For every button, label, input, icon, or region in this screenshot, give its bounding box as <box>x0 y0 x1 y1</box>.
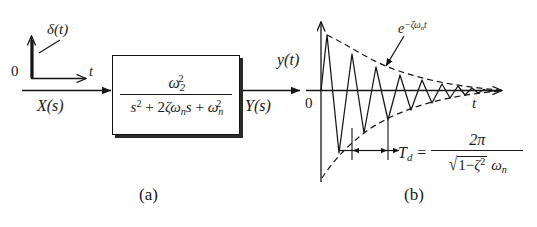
damped-period-equation: Td = 2π √1−ζ2 ωn <box>398 131 523 175</box>
period-numerator: 2π <box>465 131 489 150</box>
period-symbol: Td <box>398 144 412 163</box>
input-signal-label: X(s) <box>37 98 64 115</box>
period-T: T <box>398 144 407 161</box>
period-fraction: 2π √1−ζ2 ωn <box>431 131 523 175</box>
sqrt-zeta-superscript: 2 <box>480 156 485 167</box>
impulse-leader-line <box>39 40 60 53</box>
denom-plus-2: + <box>195 100 203 116</box>
denom-omega-2-superscript: 2 <box>216 98 221 109</box>
origin-label-a: 0 <box>11 64 19 80</box>
envelope-label: e−ζωnt <box>398 20 427 37</box>
numerator-omega-superscript: 2 <box>178 72 183 84</box>
caption-panel-b: (b) <box>404 186 424 204</box>
envelope-omega: ω <box>414 20 421 30</box>
sqrt-minus: − <box>466 157 474 173</box>
period-denominator: √1−ζ2 ωn <box>445 151 510 175</box>
impulse-label: δ(t) <box>47 22 68 38</box>
transfer-function-denominator: s2 + 2ζωns + ωn2 <box>127 95 226 117</box>
output-signal-label: Y(s) <box>245 98 271 115</box>
figure-root: ω22 s2 + 2ζωns + ωn2 δ(t) 0 t X(s) Y(s) … <box>0 0 537 227</box>
envelope-t: t <box>424 20 427 30</box>
impulse-time-axis-label: t <box>89 65 93 80</box>
transfer-function-numerator: ω22 <box>162 72 189 94</box>
response-t-axis-label: t <box>472 96 476 112</box>
sqrt-one: 1 <box>458 157 466 173</box>
denom-s-superscript: 2 <box>136 98 141 109</box>
denom-omega: ω <box>170 100 181 116</box>
period-omega-subscript: n <box>502 164 507 175</box>
period-equals-sign: = <box>412 144 431 162</box>
period-measure-ticks <box>352 120 388 160</box>
denom-plus-1: + <box>145 100 153 116</box>
period-omega: ω <box>491 157 502 173</box>
origin-label-b: 0 <box>305 96 313 112</box>
impulse-axes <box>32 36 87 79</box>
sqrt-symbol: √1−ζ2 <box>448 157 491 173</box>
response-y-axis-label: y(t) <box>277 52 299 69</box>
caption-panel-a: (a) <box>139 186 158 204</box>
transfer-function-expression: ω22 s2 + 2ζωns + ωn2 <box>112 55 240 135</box>
denom-coefficient: 2 <box>157 100 165 116</box>
envelope-annotation-arrow <box>386 36 404 66</box>
denom-s-2: s <box>186 100 192 116</box>
